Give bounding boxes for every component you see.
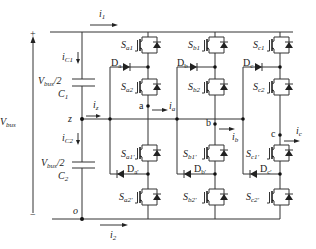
svg-text:iz: iz [93,99,99,112]
svg-text:Sb1': Sb1' [183,148,197,161]
svg-text:+: + [30,28,36,39]
node-b-label: b [206,117,211,128]
inverter-circuit-diagram: + − Vbus Vbus/2 C1 iC1 Vbus/2 C2 iC2 z o… [0,0,316,249]
svg-text:Sc1': Sc1' [246,148,260,161]
node-c-label: c [271,128,276,139]
phase-leg-b: b Sb1 Sb2 Db Sb1' Sb2' Db' ib [175,32,239,219]
c2-voltage-label: Vbus/2 [41,157,65,170]
svg-text:Sa2: Sa2 [121,81,134,94]
node-a-label: a [139,100,144,111]
phase-leg-c: c Sc1 Sc2 Dc Sc1' Sc2' Dc' ic [241,32,303,219]
ic2-label: iC2 [62,132,73,145]
vbus-label: Vbus [0,116,16,129]
svg-text:Sb2': Sb2' [183,191,197,204]
ic1-label: iC1 [62,51,73,64]
current-i1: i1 [90,8,118,27]
node-o [80,217,84,221]
svg-text:Da: Da [111,57,122,70]
capacitor-c2: Vbus/2 C2 iC2 [41,119,95,219]
svg-text:Db: Db [177,57,188,70]
phase-leg-a: a Sa1 Sa2 Da Sa1' Sa2' Da' ia [108,32,176,219]
capacitor-c1: Vbus/2 C1 iC1 [38,32,95,119]
svg-text:Sc2': Sc2' [246,191,260,204]
current-iz: iz [86,99,101,118]
svg-text:ia: ia [169,100,176,113]
svg-text:i2: i2 [110,229,117,242]
current-i2: i2 [100,223,128,242]
vbus-source-arrow: + − Vbus [0,28,36,220]
svg-text:Sc2: Sc2 [253,81,265,94]
c2-name-label: C2 [58,170,69,183]
c1-name-label: C1 [58,88,68,101]
svg-text:Sa2': Sa2' [119,191,133,204]
node-z [80,117,84,121]
svg-text:Sb1: Sb1 [188,39,200,52]
svg-text:Sc1: Sc1 [253,39,265,52]
c1-voltage-label: Vbus/2 [38,75,62,88]
svg-text:ib: ib [232,131,239,144]
node-z-label: z [67,113,72,124]
svg-text:Sa1': Sa1' [121,148,135,161]
svg-text:−: − [30,209,36,220]
node-o-label: o [73,205,78,216]
svg-text:i1: i1 [99,8,105,21]
svg-text:ic: ic [296,125,303,138]
svg-text:Sb2: Sb2 [188,81,201,94]
svg-text:Sa1: Sa1 [121,39,133,52]
svg-text:Dc: Dc [243,57,253,70]
